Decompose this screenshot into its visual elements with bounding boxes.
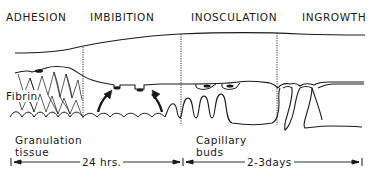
- vessel-opening: [114, 87, 121, 90]
- imbibition-arrows: [98, 90, 162, 112]
- vessel-opening: [137, 89, 144, 92]
- timeline-label-24hrs: 24 hrs.: [80, 156, 123, 168]
- vessel-opening: [227, 85, 234, 88]
- granulation-tissue-label: Granulation tissue: [15, 134, 82, 158]
- ingrowth-vessel-2: [300, 87, 362, 129]
- capillary-buds-label: Capillary buds: [196, 134, 247, 158]
- granulation-surface-line: [10, 112, 165, 117]
- fibrin-label: Fibrin: [6, 90, 38, 102]
- granulation-label-line2: tissue: [15, 146, 82, 158]
- skin-graft-healing-diagram: ADHESION IMBIBITION INOSCULATION INGROWT…: [0, 0, 374, 185]
- capillary-label-line1: Capillary: [196, 134, 247, 146]
- capillary-buds-line: [165, 88, 280, 125]
- vessel-opening: [35, 69, 43, 73]
- vessel-opening: [204, 85, 211, 88]
- timeline-label-2-3days: 2-3days: [245, 156, 294, 168]
- granulation-label-line1: Granulation: [15, 134, 82, 146]
- graft-surface-line: [15, 33, 365, 53]
- ingrowth-vessel-3: [312, 84, 364, 120]
- capillary-label-line2: buds: [196, 146, 247, 158]
- ingrowth-vessel-1: [283, 87, 300, 131]
- graft-underside-line: [15, 67, 278, 90]
- timeline: [11, 158, 362, 166]
